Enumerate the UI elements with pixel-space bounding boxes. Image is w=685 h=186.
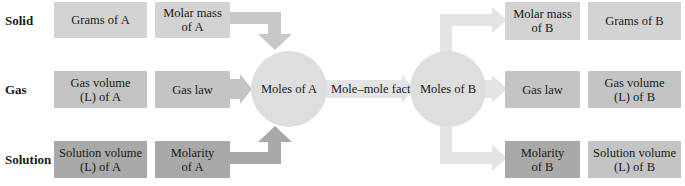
mole-mole-factor-label: Mole–mole factor xyxy=(331,82,421,97)
row-label-solid: Solid xyxy=(5,13,33,29)
row-label-gas: Gas xyxy=(5,82,27,98)
box-gas-volume-of-a: Gas volume (L) of A xyxy=(54,71,147,108)
circle-text: Moles of A xyxy=(261,82,317,97)
box-molar-mass-of-b: Molar mass of B xyxy=(505,2,580,40)
box-molar-mass-of-a: Molar mass of A xyxy=(155,2,230,38)
arrow-solid-to-moles-a xyxy=(230,12,292,50)
box-text-line2: of B xyxy=(532,21,554,35)
box-text: Gas law xyxy=(172,83,213,97)
box-text: Grams of B xyxy=(605,14,663,28)
arrow-gas-to-moles-a xyxy=(230,74,252,104)
box-grams-of-b: Grams of B xyxy=(588,2,681,40)
box-text-line2: (L) of A xyxy=(80,160,121,174)
arrow-solution-to-moles-a xyxy=(230,126,292,164)
box-text-line1: Molarity xyxy=(521,146,565,160)
box-text-line2: (L) of B xyxy=(614,90,655,104)
box-text-line2: of A xyxy=(182,160,204,174)
box-text-line1: Molar mass xyxy=(513,7,572,21)
box-text-line1: Gas volume xyxy=(70,76,130,90)
circle-moles-of-b: Moles of B xyxy=(410,51,486,127)
box-text: Grams of A xyxy=(71,13,129,27)
arrow-moles-b-to-gas xyxy=(484,75,507,103)
box-text-line2: of A xyxy=(182,20,204,34)
box-text-line1: Molar mass xyxy=(163,6,222,20)
circle-text: Moles of B xyxy=(420,82,476,97)
box-text: Gas law xyxy=(522,83,563,97)
box-text-line2: (L) of A xyxy=(80,90,121,104)
box-text-line2: (L) of B xyxy=(614,160,655,174)
arrow-moles-b-to-solid xyxy=(440,7,507,54)
box-molarity-of-b: Molarity of B xyxy=(505,141,580,178)
box-gas-law-a: Gas law xyxy=(155,71,230,108)
box-text-line1: Solution volume xyxy=(59,146,142,160)
box-text-line1: Molarity xyxy=(171,146,215,160)
circle-moles-of-a: Moles of A xyxy=(251,51,327,127)
box-solution-volume-of-a: Solution volume (L) of A xyxy=(54,141,147,178)
box-gas-volume-of-b: Gas volume (L) of B xyxy=(588,71,681,108)
box-solution-volume-of-b: Solution volume (L) of B xyxy=(588,141,681,178)
box-text-line2: of B xyxy=(532,160,554,174)
box-grams-of-a: Grams of A xyxy=(54,2,147,38)
arrow-moles-b-to-solution xyxy=(440,124,507,171)
box-gas-law-b: Gas law xyxy=(505,71,580,108)
box-text-line1: Gas volume xyxy=(604,76,664,90)
box-text-line1: Solution volume xyxy=(593,146,676,160)
row-label-solution: Solution xyxy=(5,152,51,168)
box-molarity-of-a: Molarity of A xyxy=(155,141,230,178)
